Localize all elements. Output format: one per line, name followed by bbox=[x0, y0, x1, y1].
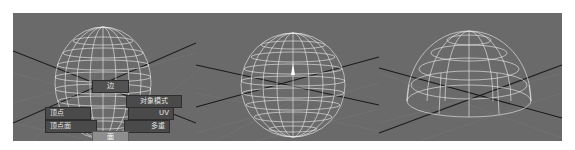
marking-menu-face[interactable]: 面 bbox=[92, 131, 129, 141]
sphere-wireframe-middle bbox=[196, 13, 379, 141]
marking-menu-edge[interactable]: 边 bbox=[92, 80, 129, 93]
viewport-middle[interactable] bbox=[196, 13, 379, 141]
marking-menu-vertex[interactable]: 顶点 bbox=[45, 107, 91, 120]
marking-menu-uv[interactable]: UV bbox=[128, 107, 174, 120]
marking-menu-vertex-face[interactable]: 顶点面 bbox=[45, 120, 97, 133]
marking-menu-multi[interactable]: 多重 bbox=[124, 120, 170, 133]
viewport-left[interactable]: 边 对象模式 顶点 UV 顶点面 多重 面 bbox=[13, 13, 196, 141]
pivot-manipulator-icon[interactable] bbox=[291, 63, 295, 75]
hemisphere-wireframe-right bbox=[379, 13, 562, 141]
viewport-right[interactable] bbox=[379, 13, 562, 141]
viewport-strip: 边 对象模式 顶点 UV 顶点面 多重 面 bbox=[13, 13, 562, 141]
